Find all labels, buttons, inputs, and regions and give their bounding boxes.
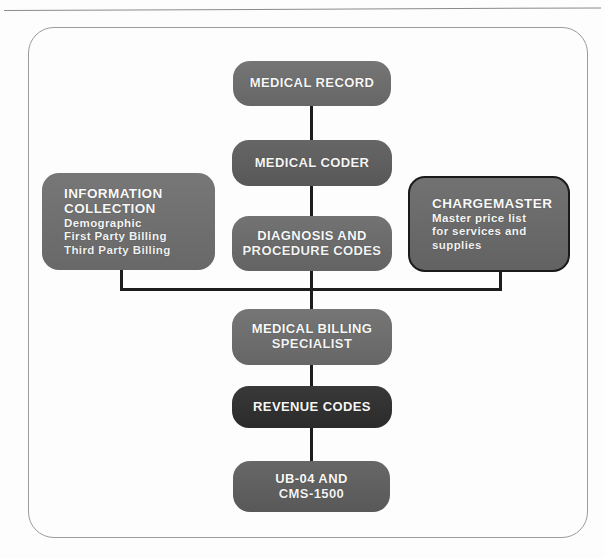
connector-coder-to-diagnosis [310, 185, 313, 217]
node-information-collection[interactable]: INFORMATION COLLECTION Demographic First… [42, 173, 215, 270]
connector-information-to-bus [120, 269, 123, 291]
node-diagnosis-procedure-codes-label: DIAGNOSIS AND PROCEDURE CODES [243, 229, 382, 258]
node-revenue-codes-label: REVENUE CODES [253, 400, 371, 415]
node-medical-billing-specialist-label: MEDICAL BILLING SPECIALIST [252, 322, 373, 351]
node-medical-coder-label: MEDICAL CODER [255, 156, 370, 171]
connector-chargemaster-to-bus [499, 271, 502, 291]
page-top-rule [4, 7, 601, 11]
connector-bus-to-specialist [310, 288, 313, 310]
node-chargemaster-detail: Master price list for services and suppl… [410, 211, 527, 253]
node-medical-record[interactable]: MEDICAL RECORD [233, 61, 391, 106]
node-medical-billing-specialist[interactable]: MEDICAL BILLING SPECIALIST [232, 309, 392, 365]
node-ub04-cms1500-label: UB-04 AND CMS-1500 [275, 472, 347, 501]
flowchart-page: MEDICAL RECORD MEDICAL CODER INFORMATION… [0, 0, 604, 558]
node-revenue-codes[interactable]: REVENUE CODES [232, 386, 392, 428]
node-medical-record-label: MEDICAL RECORD [250, 76, 375, 91]
node-chargemaster-label: CHARGEMASTER [410, 196, 552, 211]
connector-revenue-to-forms [310, 427, 313, 463]
node-diagnosis-procedure-codes[interactable]: DIAGNOSIS AND PROCEDURE CODES [232, 216, 392, 271]
node-information-collection-label: INFORMATION COLLECTION [42, 186, 163, 216]
node-ub04-cms1500[interactable]: UB-04 AND CMS-1500 [233, 461, 390, 512]
connector-record-to-coder [310, 105, 313, 141]
node-medical-coder[interactable]: MEDICAL CODER [232, 140, 392, 186]
node-information-collection-detail: Demographic First Party Billing Third Pa… [42, 216, 171, 258]
node-chargemaster[interactable]: CHARGEMASTER Master price list for servi… [408, 176, 570, 272]
